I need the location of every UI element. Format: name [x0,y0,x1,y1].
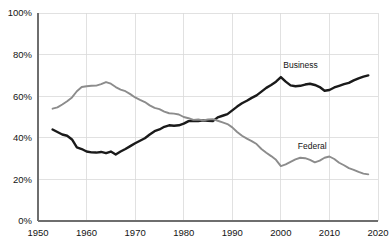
y-tick-label: 40% [13,132,33,143]
line-chart: 0%20%40%60%80%100% 195019601970198019902… [0,0,390,249]
series-label-business: Business [283,60,318,70]
x-tick-label: 2010 [319,227,340,238]
gridlines-vertical [87,13,378,221]
x-tick-label: 1970 [125,227,146,238]
y-tick-label: 20% [13,174,33,185]
y-tick-label: 0% [18,215,32,226]
axis-lines [38,13,378,221]
y-tick-labels: 0%20%40%60%80%100% [8,7,33,226]
x-tick-label: 2000 [270,227,291,238]
y-tick-label: 60% [13,91,33,102]
x-tick-label: 1960 [76,227,97,238]
y-tick-label: 100% [8,7,33,18]
gridlines-horizontal [38,13,378,179]
y-tick-label: 80% [13,49,33,60]
x-tick-labels: 19501960197019801990200020102020 [27,227,388,238]
x-tick-label: 2020 [367,227,388,238]
series-lines [53,75,369,174]
x-tick-label: 1990 [222,227,243,238]
x-tick-label: 1980 [173,227,194,238]
series-label-federal: Federal [298,141,327,151]
x-tick-label: 1950 [27,227,48,238]
chart-container: 0%20%40%60%80%100% 195019601970198019902… [0,0,390,249]
